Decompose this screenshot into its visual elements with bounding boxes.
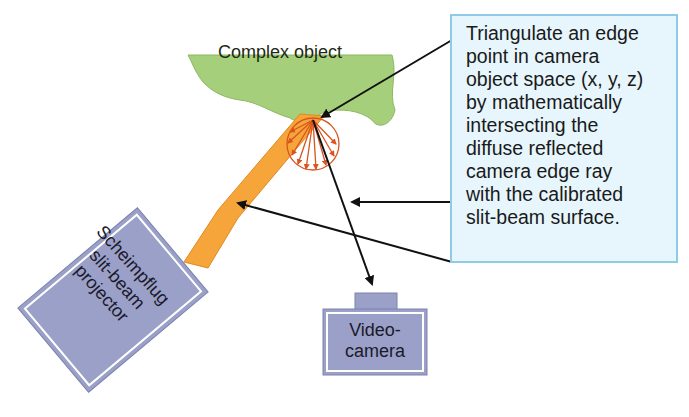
complex-object-label: Complex object bbox=[218, 42, 342, 63]
camera-label: Video- camera bbox=[330, 320, 420, 362]
complex-object-shape bbox=[188, 55, 395, 125]
explanation-callout: Triangulate an edge point in camera obje… bbox=[450, 14, 678, 263]
